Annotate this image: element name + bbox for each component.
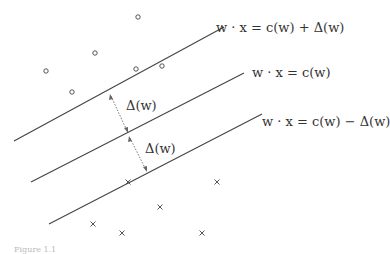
positive-point-circle-icon [70,90,74,94]
label-upper-hyperplane: w · x = c(w) + Δ(w) [216,20,344,35]
negative-point-cross-icon [120,231,125,236]
negative-point-cross-icon [158,205,163,210]
hyperplane-lower [49,114,262,224]
arrowhead-icon [109,94,113,100]
label-middle-hyperplane: w · x = c(w) [252,65,331,80]
margin-arrow-lower [130,138,146,170]
label-margin-upper: Δ(w) [126,98,157,113]
label-margin-lower: Δ(w) [145,141,176,156]
figure-caption: Figure 1.1 [14,245,56,254]
positive-point-circle-icon [136,15,140,19]
positive-point-circle-icon [134,67,138,71]
arrowhead-icon [128,136,132,142]
hyperplane-upper [14,27,224,141]
positive-point-circle-icon [160,64,164,68]
negative-point-cross-icon [215,180,220,185]
margin-arrow-upper [111,96,127,131]
negative-point-cross-icon [200,231,205,236]
positive-point-circle-icon [93,51,97,55]
arrowhead-icon [143,166,147,172]
arrowhead-icon [124,127,128,133]
label-lower-hyperplane: w · x = c(w) − Δ(w) [262,114,390,129]
negative-point-cross-icon [91,222,96,227]
positive-point-circle-icon [44,69,48,73]
hyperplane-middle [31,73,244,182]
